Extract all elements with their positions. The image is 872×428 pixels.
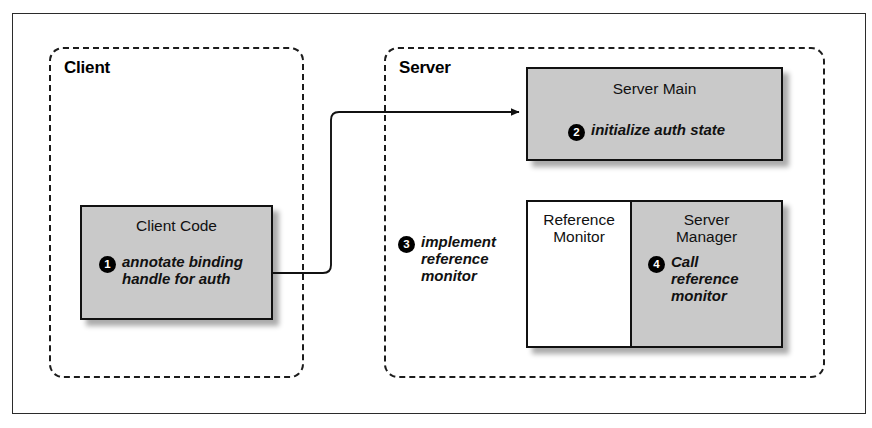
box-server-main-title: Server Main: [528, 69, 781, 97]
step-1-bullet: 1: [99, 256, 116, 273]
cell-reference-monitor-title: Reference Monitor: [528, 202, 630, 246]
cell-server-manager: Server Manager 4 Call reference monitor: [632, 202, 781, 346]
step-1-text: annotate binding handle for auth: [122, 254, 243, 288]
box-client-code-title: Client Code: [82, 207, 271, 234]
zone-label-client: Client: [64, 58, 110, 78]
cell-server-manager-title: Server Manager: [632, 202, 781, 246]
cell-reference-monitor: Reference Monitor: [528, 202, 632, 346]
step-3-bullet: 3: [398, 236, 415, 253]
step-3-text: implement reference monitor: [421, 234, 496, 284]
step-4: 4 Call reference monitor: [648, 254, 739, 304]
step-2-text: initialize auth state: [591, 122, 725, 139]
step-1: 1 annotate binding handle for auth: [99, 254, 243, 288]
zone-label-server: Server: [399, 58, 451, 78]
step-2: 2 initialize auth state: [568, 122, 725, 141]
step-4-text: Call reference monitor: [671, 254, 739, 304]
box-reference-monitor-server-manager: Reference Monitor Server Manager 4 Call …: [526, 200, 783, 348]
box-server-main: Server Main 2 initialize auth state: [526, 67, 783, 161]
step-3: 3 implement reference monitor: [398, 234, 496, 284]
diagram-canvas: Client Server Client Code 1 annotate bin…: [0, 0, 872, 428]
step-4-bullet: 4: [648, 256, 665, 273]
step-2-bullet: 2: [568, 124, 585, 141]
box-client-code: Client Code 1 annotate binding handle fo…: [80, 205, 273, 320]
